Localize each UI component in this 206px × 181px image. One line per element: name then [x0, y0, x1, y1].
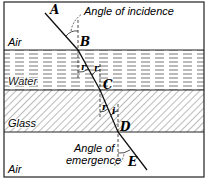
- medium-glass-label: Glass: [8, 117, 37, 129]
- refraction-diagram: A B C D E Angle of incidence Angle of em…: [0, 0, 206, 181]
- angle-emergence-label-1: Angle of: [73, 142, 115, 154]
- point-b-label: B: [79, 35, 90, 49]
- angle-incidence-label: Angle of incidence: [83, 5, 174, 17]
- angle-emergence-label-2: emergence: [66, 154, 121, 166]
- medium-air-bottom-label: Air: [7, 163, 23, 175]
- medium-air-top-label: Air: [7, 36, 23, 48]
- point-a-label: A: [49, 3, 59, 17]
- point-d-label: D: [119, 120, 131, 134]
- point-e-label: E: [127, 155, 138, 169]
- medium-water-label: Water: [8, 75, 38, 87]
- angle-glass-right-label: i: [112, 106, 116, 116]
- point-c-label: C: [103, 78, 113, 92]
